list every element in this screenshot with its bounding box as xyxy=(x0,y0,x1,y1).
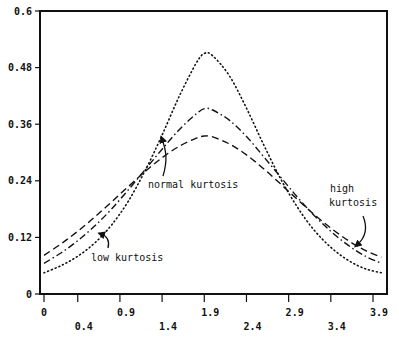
annotation-normal-kurtosis: normal kurtosis xyxy=(148,179,238,190)
y-tick-label: 0.24 xyxy=(8,175,32,186)
annotation-high-kurtosis-line1: high xyxy=(330,183,354,194)
axes: 00.120.240.360.480.600.40.91.41.92.42.93… xyxy=(8,6,388,333)
x-tick-label: 1.4 xyxy=(159,321,177,332)
x-tick-label: 1.9 xyxy=(201,307,219,318)
annotation-arrow-high xyxy=(357,216,365,245)
annotation-high-kurtosis-line2: kurtosis xyxy=(329,197,377,208)
x-tick-label: 2.4 xyxy=(243,321,261,332)
annotations-layer: normal kurtosislow kurtosishighkurtosis xyxy=(91,139,377,263)
y-tick-label: 0.48 xyxy=(8,62,32,73)
y-tick-label: 0.36 xyxy=(8,119,32,130)
x-tick-label: 3.9 xyxy=(370,307,388,318)
annotation-low-kurtosis: low kurtosis xyxy=(91,252,163,263)
y-tick-label: 0.6 xyxy=(14,6,32,17)
x-tick-label: 0.4 xyxy=(75,321,93,332)
series-layer xyxy=(44,53,381,273)
x-tick-label: 2.9 xyxy=(286,307,304,318)
kurtosis-chart: 00.120.240.360.480.600.40.91.41.92.42.93… xyxy=(0,0,399,341)
x-tick-label: 3.4 xyxy=(328,321,346,332)
x-tick-label: 0.9 xyxy=(117,307,135,318)
y-tick-label: 0 xyxy=(26,289,32,300)
x-tick-label: 0 xyxy=(41,307,47,318)
series-line-high-kurtosis xyxy=(44,53,381,273)
y-tick-label: 0.12 xyxy=(8,232,32,243)
